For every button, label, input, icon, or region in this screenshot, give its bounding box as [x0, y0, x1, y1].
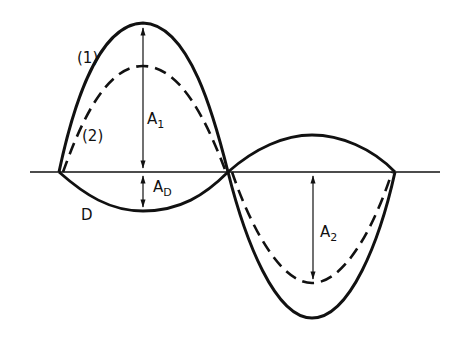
label-d: D	[81, 206, 93, 224]
label-ad: AD	[153, 178, 172, 199]
label-a2: A2	[320, 223, 337, 244]
label-a1: A1	[147, 110, 164, 131]
curve-2-lobe-1	[63, 66, 226, 172]
label-curve-1: (1)	[77, 49, 98, 67]
wave-diagram: (1) (2) A1 AD D A2	[0, 0, 459, 340]
curve-d-lobe-2	[228, 135, 395, 172]
curve-2-lobe-2	[232, 172, 392, 283]
curve-1-lobe-2	[228, 172, 395, 318]
label-curve-2: (2)	[82, 127, 103, 145]
